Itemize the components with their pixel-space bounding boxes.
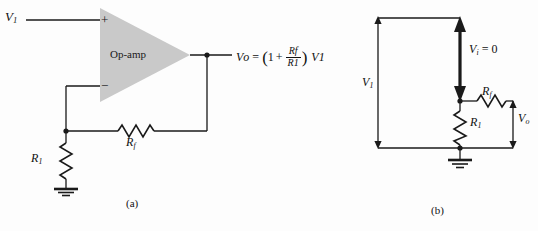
circuit-diagram-svg — [0, 0, 538, 231]
label-vi-zero: Vi= 0 — [469, 43, 497, 57]
caption-b: (b) — [431, 204, 444, 216]
fraction-numerator: Rf — [287, 46, 300, 57]
opamp-plus-terminal: + — [101, 13, 108, 26]
circuit-a-group — [26, 8, 232, 196]
ground-icon-a — [54, 189, 78, 196]
gain-fraction: Rf R1 — [286, 46, 301, 68]
v1-arrowhead-up — [374, 16, 381, 24]
resistor-r1-zigzag — [60, 143, 72, 179]
label-vo-b: Vo — [518, 112, 529, 126]
fraction-denominator: R1 — [286, 57, 301, 69]
label-r1-b: R1 — [470, 116, 481, 130]
opamp-minus-terminal: − — [101, 79, 108, 92]
opamp-label: Op-amp — [110, 48, 146, 60]
caption-a: (a) — [126, 197, 138, 209]
vi-double-arrow — [454, 16, 466, 102]
output-equation: Vo = ( 1 + Rf R1 ) V1 — [236, 46, 325, 68]
vo-measure-arrow — [509, 100, 516, 149]
resistor-rf-zigzag — [118, 125, 154, 137]
ground-icon-b — [448, 160, 472, 168]
resistor-r1-zigzag-b — [454, 111, 466, 145]
figure-canvas: V1 Op-amp + − Rf R1 Vo = ( 1 + Rf R1 ) V… — [0, 0, 538, 231]
circuit-b-group — [374, 16, 516, 168]
label-rf-a: Rf — [126, 136, 136, 150]
label-v1-input: V1 — [5, 10, 17, 25]
label-rf-b: Rf — [482, 85, 492, 99]
label-r1-a: R1 — [31, 152, 42, 166]
label-v1-b: V1 — [362, 76, 373, 90]
